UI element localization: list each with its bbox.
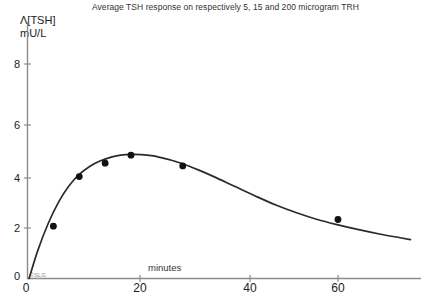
data-point	[102, 160, 109, 167]
axes	[27, 22, 421, 279]
data-point	[50, 223, 57, 230]
data-point	[76, 173, 83, 180]
data-point	[179, 162, 186, 169]
data-point	[128, 152, 135, 159]
chart-container: Average TSH response on respectively 5, …	[0, 0, 424, 306]
data-point	[335, 216, 342, 223]
fitted-curve-path	[29, 154, 410, 278]
plot-area	[0, 0, 424, 306]
